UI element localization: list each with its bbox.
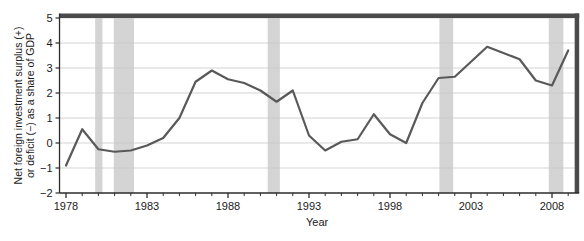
line-chart: −2−10123451978198319881993199820032008Ye… <box>0 0 584 241</box>
x-tick-label: 1983 <box>135 200 159 212</box>
recession-band <box>268 18 280 193</box>
x-axis-ticks: 1978198319881993199820032008 <box>54 193 568 212</box>
y-axis-title-line-2: or deficit (−) as a share of GDP <box>24 33 36 178</box>
y-tick-label: −2 <box>40 187 53 199</box>
y-tick-label: 2 <box>46 87 52 99</box>
y-axis-ticks: −2−1012345 <box>40 12 60 199</box>
plot-background <box>60 18 575 193</box>
recession-band <box>549 18 564 193</box>
plot-right-border <box>575 14 580 194</box>
y-tick-label: 3 <box>46 62 52 74</box>
x-tick-label: 1988 <box>216 200 240 212</box>
x-tick-label: 2008 <box>540 200 564 212</box>
x-tick-label: 1993 <box>297 200 321 212</box>
x-tick-label: 2003 <box>459 200 483 212</box>
recession-band <box>114 18 134 193</box>
recession-band <box>439 18 453 193</box>
y-tick-label: 4 <box>46 37 52 49</box>
recession-band <box>95 18 102 193</box>
y-axis-title-line-1: Net foreign investment surplus (+) <box>12 27 24 185</box>
y-tick-label: 1 <box>46 112 52 124</box>
y-tick-label: −1 <box>40 162 53 174</box>
y-tick-label: 5 <box>46 12 52 24</box>
plot-top-border <box>60 14 580 19</box>
x-tick-label: 1978 <box>54 200 78 212</box>
y-tick-label: 0 <box>46 137 52 149</box>
chart-figure: −2−10123451978198319881993199820032008Ye… <box>0 0 584 241</box>
x-axis-title: Year <box>306 216 329 228</box>
x-tick-label: 1998 <box>378 200 402 212</box>
